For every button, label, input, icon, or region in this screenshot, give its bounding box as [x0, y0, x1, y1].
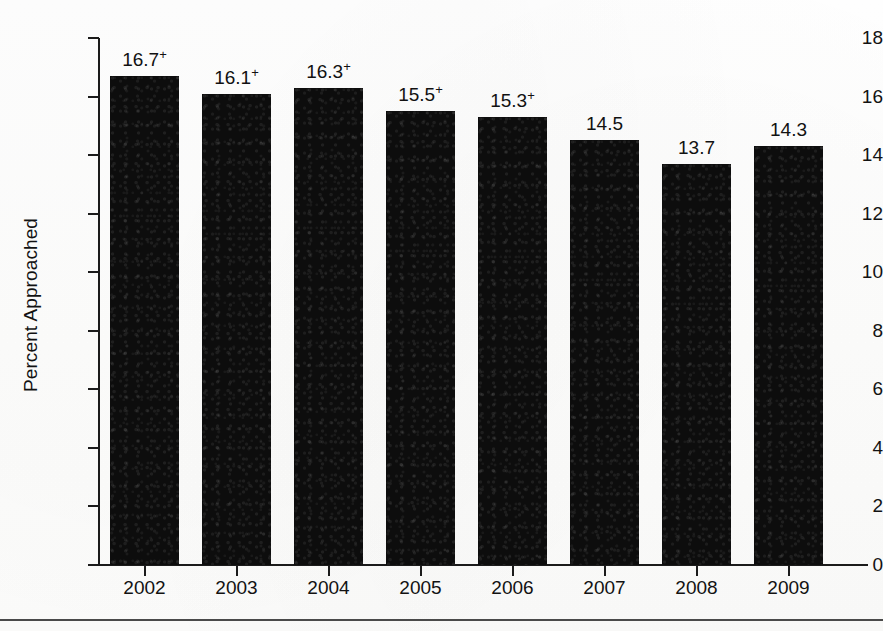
x-tick-label-2004: 2004: [284, 578, 374, 597]
x-tick-label-2009: 2009: [744, 578, 834, 597]
footnote-marker: +: [159, 47, 167, 62]
figure-page: Percent Approached 181614121086420 20022…: [0, 0, 883, 631]
y-tick-mark: [88, 330, 99, 332]
bar-value-label-2006: 15.3+: [463, 91, 563, 110]
y-tick-mark: [88, 96, 99, 98]
x-tick-mark: [328, 566, 330, 576]
y-tick-label: 10: [837, 262, 883, 281]
y-tick-label: 6: [837, 379, 883, 398]
x-tick-label-2008: 2008: [652, 578, 742, 597]
x-tick-mark: [420, 566, 422, 576]
bar-2004: [294, 88, 363, 565]
x-tick-label-2005: 2005: [376, 578, 466, 597]
bar-value-label-2002: 16.7+: [95, 50, 195, 69]
y-tick-mark: [88, 388, 99, 390]
x-tick-mark: [604, 566, 606, 576]
x-tick-mark: [696, 566, 698, 576]
y-axis-title: Percent Approached: [18, 90, 44, 520]
y-tick-mark: [88, 505, 99, 507]
y-tick-label: 12: [837, 204, 883, 223]
y-tick-label: 0: [837, 555, 883, 574]
bar-2006: [478, 117, 547, 565]
y-tick-mark: [88, 213, 99, 215]
y-tick-label: 16: [837, 87, 883, 106]
x-tick-mark: [788, 566, 790, 576]
bar-chart: Percent Approached 181614121086420 20022…: [0, 0, 883, 631]
x-tick-label-2003: 2003: [192, 578, 282, 597]
bar-value-label-2009: 14.3: [739, 120, 839, 139]
footnote-marker: +: [343, 58, 351, 73]
x-tick-mark: [236, 566, 238, 576]
bar-value-label-2007: 14.5: [555, 114, 655, 133]
y-tick-label: 18: [837, 28, 883, 47]
bar-2007: [570, 140, 639, 565]
y-tick-mark: [88, 37, 99, 39]
footnote-marker: +: [251, 64, 259, 79]
bar-2002: [110, 76, 179, 565]
x-tick-label-2006: 2006: [468, 578, 558, 597]
bar-value-label-2008: 13.7: [647, 138, 747, 157]
x-tick-label-2007: 2007: [560, 578, 650, 597]
y-tick-mark: [88, 154, 99, 156]
x-tick-mark: [144, 566, 146, 576]
y-tick-mark: [88, 447, 99, 449]
y-tick-label: 2: [837, 496, 883, 515]
y-tick-mark: [88, 564, 99, 566]
x-tick-label-2002: 2002: [100, 578, 190, 597]
y-tick-label: 14: [837, 145, 883, 164]
bar-value-label-2005: 15.5+: [371, 85, 471, 104]
bar-2008: [662, 164, 731, 565]
x-tick-mark: [512, 566, 514, 576]
bar-value-label-2004: 16.3+: [279, 62, 379, 81]
bottom-divider-rule: [0, 619, 883, 621]
bar-2009: [754, 146, 823, 565]
y-tick-mark: [88, 271, 99, 273]
footnote-marker: +: [435, 82, 443, 97]
y-tick-label: 8: [837, 321, 883, 340]
bar-value-label-2003: 16.1+: [187, 68, 287, 87]
y-axis-line: [98, 38, 100, 566]
bar-2003: [202, 94, 271, 565]
bar-2005: [386, 111, 455, 565]
footnote-marker: +: [527, 88, 535, 103]
y-tick-label: 4: [837, 438, 883, 457]
